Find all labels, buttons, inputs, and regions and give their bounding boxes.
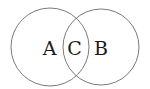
label-b: B — [94, 37, 108, 59]
label-a: A — [42, 37, 57, 59]
label-c: C — [67, 37, 82, 59]
venn-diagram: A C B — [0, 0, 150, 89]
